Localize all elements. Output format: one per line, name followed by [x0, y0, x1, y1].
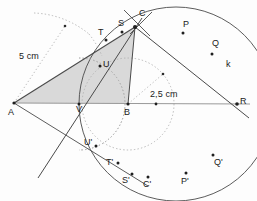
label-point-R: R [240, 97, 247, 106]
label-point-U-prime: U' [84, 138, 92, 147]
arc-marker-25cm [162, 73, 165, 76]
dot-C [133, 25, 137, 29]
label-point-U: U [103, 60, 110, 69]
dot-T [105, 39, 108, 42]
dot-U [99, 65, 102, 68]
line-C-R [135, 27, 249, 118]
dot-dim-25cm-base [155, 103, 158, 106]
dot-U-prime [95, 145, 98, 148]
dot-Q [211, 53, 214, 56]
label-point-S: S [118, 19, 124, 28]
dot-P-prime [185, 172, 188, 175]
label-point-C: C [139, 9, 146, 18]
label-point-T: T [98, 28, 104, 37]
label-point-T-prime: T' [106, 158, 113, 167]
label-dimension-5cm: 5 cm [19, 52, 39, 61]
diagram-canvas: A B C R k P Q S T U V U' T' S' C' P' Q' … [0, 0, 257, 201]
construction-arc-left [34, 13, 89, 34]
dot-P [182, 32, 185, 35]
label-point-Q-prime: Q' [214, 158, 223, 167]
label-point-C-prime: C' [143, 180, 151, 189]
dot-S [121, 31, 124, 34]
label-point-A: A [8, 108, 14, 117]
arc-marker-5cm [64, 25, 67, 28]
label-circle-k: k [226, 60, 231, 69]
geometry-figure [0, 0, 257, 201]
baseline-AR [14, 103, 250, 104]
label-point-P-prime: P' [181, 177, 189, 186]
label-point-S-prime: S' [122, 176, 130, 185]
dot-B [126, 102, 129, 105]
label-point-P: P [183, 20, 189, 29]
dot-R [235, 102, 239, 106]
label-point-B: B [124, 108, 130, 117]
label-point-Q: Q [212, 39, 219, 48]
label-point-V: V [76, 105, 82, 114]
dot-T-prime [117, 162, 120, 165]
dot-A [12, 101, 15, 104]
label-dimension-25cm: 2,5 cm [150, 90, 178, 99]
dot-S-prime [131, 173, 134, 176]
